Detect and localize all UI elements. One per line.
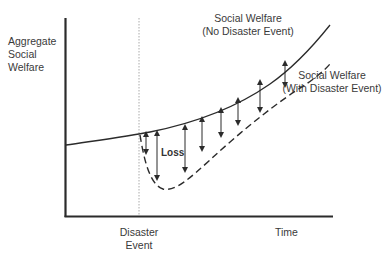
welfare-diagram — [0, 0, 389, 259]
no-disaster-label-line: (No Disaster Event) — [188, 25, 308, 38]
with-disaster-label: Social Welfare (With Disaster Event) — [276, 69, 388, 95]
with-disaster-label-line: Social Welfare — [276, 69, 388, 82]
no-disaster-label: Social Welfare (No Disaster Event) — [188, 12, 308, 38]
loss-arrows — [146, 63, 285, 178]
y-axis-label-line: Welfare — [8, 61, 56, 74]
y-axis-label-line: Social — [8, 48, 56, 61]
loss-label: Loss — [161, 147, 184, 158]
disaster-event-label-line: Event — [108, 239, 170, 252]
no-disaster-label-line: Social Welfare — [188, 12, 308, 25]
disaster-event-label-line: Disaster — [108, 226, 170, 239]
with-disaster-label-line: (With Disaster Event) — [276, 82, 388, 95]
disaster-event-label: Disaster Event — [108, 226, 170, 252]
x-axis-label: Time — [275, 226, 298, 239]
y-axis-label: Aggregate Social Welfare — [8, 35, 56, 74]
y-axis-label-line: Aggregate — [8, 35, 56, 48]
